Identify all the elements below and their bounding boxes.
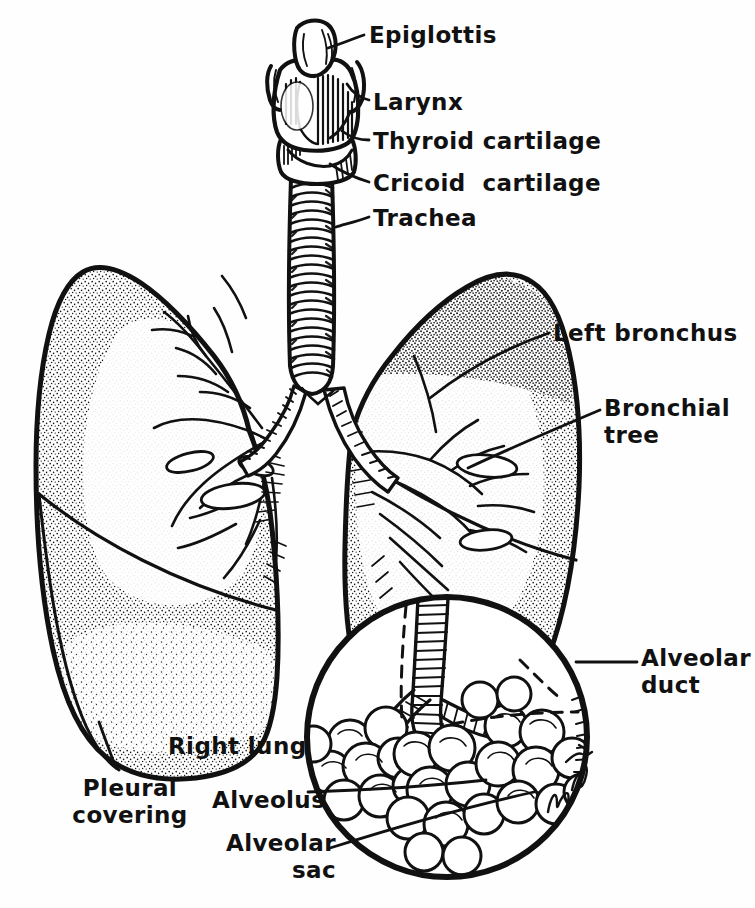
label-epiglottis: Epiglottis <box>369 22 497 49</box>
label-left-bronchus: Left bronchus <box>553 320 738 347</box>
label-alveolar-duct: Alveolar duct <box>641 645 751 699</box>
label-thyroid-cartilage: Thyroid cartilage <box>373 128 601 155</box>
label-right-lung: Right lung <box>168 733 307 760</box>
label-cricoid-cartilage: Cricoid cartilage <box>373 170 601 197</box>
label-trachea: Trachea <box>373 205 477 232</box>
label-bronchial-tree: Bronchial tree <box>604 395 730 449</box>
label-alveolar-sac: Alveolar sac <box>216 830 336 884</box>
label-pleural-covering: Pleural covering <box>65 775 195 829</box>
thyroid-highlight <box>281 82 313 130</box>
alveolar-duct-tube <box>412 598 448 742</box>
label-larynx: Larynx <box>373 89 463 116</box>
label-alveolus: Alveolus <box>212 787 325 814</box>
respiratory-system-figure: Epiglottis Larynx Thyroid cartilage Cric… <box>0 0 755 908</box>
